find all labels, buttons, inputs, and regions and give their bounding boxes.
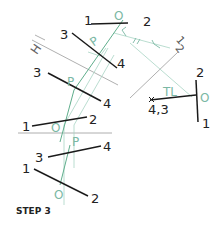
aux-label-4: 4 [117, 56, 125, 71]
aux-label-1: 1 [84, 13, 92, 28]
op-aux [74, 20, 123, 90]
line-3-4-top [48, 73, 101, 101]
line-1-2-aux [91, 23, 128, 24]
top-label-4: 4 [103, 96, 111, 111]
fold-label-h: H [28, 42, 45, 57]
point-label-tl: TL [162, 85, 177, 99]
front-label-o: O [54, 188, 63, 202]
op-front [60, 145, 70, 185]
point-label-2: 2 [196, 65, 204, 80]
front-label-4: 4 [103, 139, 111, 154]
front-label-3: 3 [35, 150, 43, 165]
fold-line-h-1-parallel [35, 35, 45, 40]
transfer-marks [122, 27, 160, 48]
fold-line-h-1 [32, 40, 118, 85]
top-label-o: O [51, 121, 60, 135]
top-label-2: 2 [89, 112, 97, 127]
line-1-2-point [196, 80, 198, 122]
aux-label-2: 2 [143, 14, 151, 29]
fold-label-2: 2 [173, 42, 187, 56]
point-label-o: O [200, 91, 209, 105]
aux-label-3: 3 [60, 27, 68, 42]
front-label-2: 2 [91, 191, 99, 206]
top-label-1: 1 [22, 119, 30, 134]
descriptive-geometry-diagram: 1 2 3 4 O P 3 4 P 1 2 O 3 4 P 1 2 O 2 1 … [0, 0, 220, 230]
step-label: STEP 3 [16, 206, 51, 216]
front-label-p: P [72, 135, 79, 149]
front-label-1: 1 [22, 161, 30, 176]
point-label-43: 4,3 [148, 102, 169, 117]
projection-lines [64, 33, 192, 205]
top-label-3: 3 [33, 65, 41, 80]
top-label-p: P [67, 75, 74, 89]
aux-label-o: O [114, 9, 123, 23]
point-label-1: 1 [202, 116, 210, 131]
